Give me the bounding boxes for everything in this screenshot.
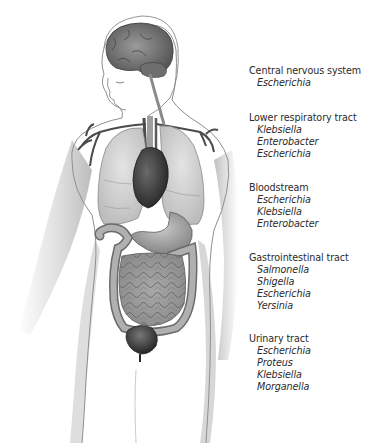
organism: Klebsiella — [249, 206, 318, 218]
organism: Escherichia — [249, 77, 361, 89]
site-title: Bloodstream — [249, 182, 318, 194]
organism: Enterobacter — [249, 136, 357, 148]
site-bloodstream: Bloodstream Escherichia Klebsiella Enter… — [249, 182, 318, 230]
organism: Escherichia — [249, 194, 318, 206]
site-title: Central nervous system — [249, 65, 361, 77]
organism: Shigella — [249, 276, 349, 288]
site-title: Gastrointestinal tract — [249, 252, 349, 264]
site-central-nervous-system: Central nervous system Escherichia — [249, 65, 361, 89]
body-illustration — [0, 0, 250, 443]
site-title: Lower respiratory tract — [249, 112, 357, 124]
site-gastrointestinal-tract: Gastrointestinal tract Salmonella Shigel… — [249, 252, 349, 312]
face — [107, 78, 126, 110]
site-lower-respiratory-tract: Lower respiratory tract Klebsiella Enter… — [249, 112, 357, 160]
organism: Salmonella — [249, 264, 349, 276]
organism: Enterobacter — [249, 218, 318, 230]
organism: Escherichia — [249, 288, 349, 300]
organism: Yersinia — [249, 300, 349, 312]
organism: Escherichia — [249, 345, 311, 357]
right-arm — [214, 150, 238, 360]
left-arm — [18, 140, 92, 335]
organism: Morganella — [249, 381, 311, 393]
site-title: Urinary tract — [249, 333, 311, 345]
organism: Klebsiella — [249, 124, 357, 136]
organism: Proteus — [249, 357, 311, 369]
organism: Klebsiella — [249, 369, 311, 381]
site-urinary-tract: Urinary tract Escherichia Proteus Klebsi… — [249, 333, 311, 393]
organism: Escherichia — [249, 148, 357, 160]
bladder — [126, 325, 157, 354]
legs — [135, 370, 136, 443]
